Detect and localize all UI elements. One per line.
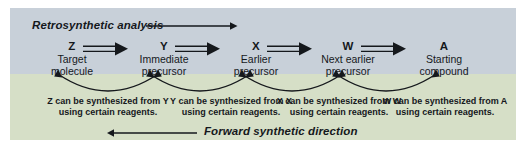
retrosynthetic-analysis-label: Retrosynthetic analysis [32, 19, 163, 31]
caption-line-1: Z can be synthesized from Y [47, 96, 168, 106]
caption-line-2: using certain reagents. [41, 107, 175, 118]
caption-line-2: using certain reagents. [378, 107, 512, 118]
caption-line-1: W can be synthesized from A [383, 96, 508, 106]
retrosynthetic-double-arrow-icon [174, 41, 222, 57]
retrosynthesis-figure: Retrosynthetic analysis Z Target molecul… [0, 0, 526, 152]
retrosynthetic-double-arrow-icon [82, 41, 130, 57]
caption-w-from-a: W can be synthesized from A using certai… [378, 96, 512, 118]
forward-synthetic-direction-label: Forward synthetic direction [204, 125, 358, 137]
diagram-panel: Retrosynthetic analysis Z Target molecul… [10, 8, 516, 140]
caption-z-from-y: Z can be synthesized from Y using certai… [41, 96, 175, 118]
retrosynthetic-double-arrow-icon [266, 41, 314, 57]
retrosynthetic-double-arrow-icon [360, 41, 408, 57]
arrow-right-icon [146, 19, 238, 33]
arrow-left-icon [107, 126, 197, 140]
species-symbol: A [398, 40, 490, 53]
